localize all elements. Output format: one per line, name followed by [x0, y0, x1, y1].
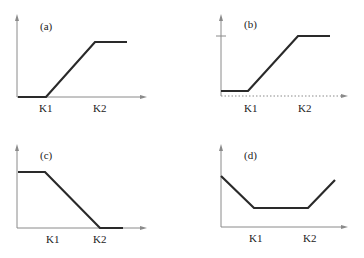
x-axis-arrow-icon — [140, 226, 147, 230]
panel-label: (a) — [40, 20, 53, 33]
panel-c: (c) K1 K2 — [15, 144, 147, 245]
payoff-curve — [18, 42, 127, 97]
k2-label: K2 — [298, 102, 311, 114]
k1-label: K1 — [244, 102, 257, 114]
panel-label: (d) — [244, 149, 257, 162]
panel-d: (d) K1 K2 — [219, 144, 348, 244]
x-axis-arrow-icon — [140, 95, 147, 99]
payoff-curve — [18, 172, 123, 228]
k2-label: K2 — [93, 233, 106, 245]
payoff-diagrams: (a) K1 K2 (b) K1 K2 (c) K1 K2 (d) K1 K2 — [0, 0, 364, 258]
panel-b: (b) K1 K2 — [216, 14, 348, 114]
x-axis-arrow-icon — [341, 94, 348, 98]
k2-label: K2 — [303, 232, 316, 244]
y-axis-arrow-icon — [15, 14, 19, 21]
k2-label: K2 — [93, 102, 106, 114]
k1-label: K1 — [39, 102, 52, 114]
panel-a: (a) K1 K2 — [15, 14, 147, 114]
payoff-curve — [221, 36, 330, 91]
y-axis-arrow-icon — [219, 14, 223, 21]
k1-label: K1 — [249, 232, 262, 244]
y-axis-arrow-icon — [15, 144, 19, 151]
panel-label: (c) — [40, 149, 53, 162]
payoff-curve — [221, 176, 335, 208]
x-axis-arrow-icon — [341, 225, 348, 229]
k1-label: K1 — [46, 233, 59, 245]
y-axis-arrow-icon — [219, 144, 223, 151]
panel-label: (b) — [244, 18, 257, 31]
